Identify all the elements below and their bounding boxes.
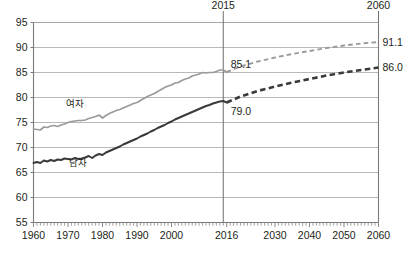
x-tick-label-2030: 2030 — [263, 229, 287, 241]
right-axis-labels: 91.186.0 — [383, 36, 404, 74]
x-tick-label-2016: 2016 — [215, 229, 239, 241]
y-tick-label-90: 90 — [16, 41, 28, 53]
series-lines-group — [34, 42, 379, 163]
annotation-85.1: 85.1 — [231, 58, 252, 70]
right-axis-label-86.0: 86.0 — [383, 61, 404, 73]
x-tick-label-1990: 1990 — [125, 229, 149, 241]
data-annotations: 85.179.0 — [231, 58, 252, 117]
life-expectancy-chart: 959085807570656055 196019701980199020002… — [0, 0, 411, 257]
y-tick-label-75: 75 — [16, 116, 28, 128]
x-tick-label-2050: 2050 — [332, 229, 356, 241]
x-axis-ticks — [34, 223, 379, 228]
right-axis-label-91.1: 91.1 — [383, 36, 404, 48]
y-tick-label-60: 60 — [16, 191, 28, 203]
series-inline-labels: 여자남자 — [66, 98, 87, 169]
x-tick-label-2060: 2060 — [367, 229, 391, 241]
y-tick-label-55: 55 — [16, 216, 28, 228]
x-tick-label-2040: 2040 — [298, 229, 322, 241]
top-axis-label-2060: 2060 — [367, 0, 391, 11]
top-axis-label-2015: 2015 — [212, 0, 236, 11]
y-tick-label-95: 95 — [16, 16, 28, 28]
series-label-female: 여자 — [66, 98, 84, 109]
y-axis-tick-labels: 959085807570656055 — [16, 16, 28, 228]
x-axis-tick-labels: 1960197019801990200020162030204020502060 — [22, 229, 391, 241]
annotation-79.0: 79.0 — [231, 105, 252, 117]
y-tick-label-70: 70 — [16, 141, 28, 153]
y-tick-label-80: 80 — [16, 91, 28, 103]
series-observed-female — [34, 70, 227, 130]
top-axis-labels: 20152060 — [212, 0, 391, 11]
y-tick-label-65: 65 — [16, 166, 28, 178]
chart-canvas: 959085807570656055 196019701980199020002… — [0, 0, 411, 257]
series-observed-male — [34, 101, 227, 163]
series-label-male: 남자 — [69, 157, 87, 168]
x-tick-label-1970: 1970 — [56, 229, 80, 241]
x-tick-label-2000: 2000 — [160, 229, 184, 241]
divider-line-2015 — [223, 11, 378, 223]
x-tick-label-1960: 1960 — [22, 229, 46, 241]
x-tick-label-1980: 1980 — [91, 229, 115, 241]
y-tick-label-85: 85 — [16, 66, 28, 78]
